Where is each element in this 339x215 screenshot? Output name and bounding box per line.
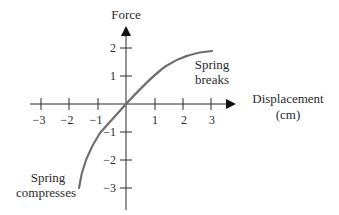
x-tick-label: 3 — [209, 113, 215, 127]
x-tick-label: −2 — [61, 113, 74, 127]
y-tick-label: 1 — [110, 69, 116, 83]
force-displacement-chart: −3 −2 −1 1 2 3 2 1 −1 −2 −3 Force Displa… — [0, 0, 339, 215]
annotation-spring-compresses-line1: Spring — [31, 170, 66, 185]
y-tick-label: −2 — [103, 153, 116, 167]
x-tick-label: −3 — [33, 113, 46, 127]
x-axis-unit: (cm) — [276, 107, 301, 122]
x-axis-title: Displacement — [252, 91, 324, 106]
annotation-spring-breaks-line1: Spring — [195, 57, 230, 72]
y-axis-arrow-icon — [121, 26, 131, 36]
annotation-spring-breaks-line2: breaks — [195, 72, 229, 87]
x-axis-arrow-icon — [226, 99, 236, 109]
y-axis-title: Force — [111, 7, 141, 22]
annotation-spring-compresses-line2: compresses — [16, 185, 76, 200]
y-tick-label: 2 — [110, 41, 116, 55]
x-tick-label: −1 — [90, 113, 103, 127]
x-tick-label: 1 — [152, 113, 158, 127]
y-tick-label: −3 — [103, 181, 116, 195]
x-tick-label: 2 — [181, 113, 187, 127]
